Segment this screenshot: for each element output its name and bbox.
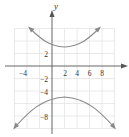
x-axis-arrow-icon [121,64,128,69]
x-tick-label: −4 [19,69,27,78]
y-tick-label: −8 [40,113,48,122]
y-tick-label: −4 [40,88,48,97]
grid [15,29,115,129]
x-tick-label: 8 [100,69,104,78]
x-tick-label: 4 [75,69,79,78]
y-tick-labels: 2 −2 −4 −8 [40,50,48,122]
x-tick-label: 2 [63,69,67,78]
hyperbola-graph: y −4 2 4 6 8 2 −2 −4 −8 [0,0,129,137]
y-tick-label: 2 [44,50,48,59]
y-axis-arrow-icon [50,10,55,17]
x-tick-labels: −4 2 4 6 8 [19,69,104,78]
x-tick-label: 6 [88,69,92,78]
y-axis-label: y [53,1,58,11]
y-tick-label: −2 [40,75,48,84]
